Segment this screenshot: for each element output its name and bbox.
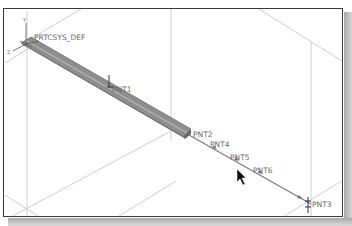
- csys-y-axis-label: Y: [22, 17, 27, 23]
- datum-point-pnt2-label[interactable]: PNT2: [193, 130, 213, 139]
- arrow-pointer-icon: [237, 169, 246, 185]
- csys-z-axis-label: Z: [7, 49, 11, 55]
- frame-shadow-right: [344, 12, 352, 226]
- frame-shadow-bottom: [8, 218, 352, 226]
- model-viewport[interactable]: Y Z PRTCSYS_DEF PNT1 PNT2 PNT4 PNT5 PNT6…: [3, 8, 343, 217]
- csys-label: PRTCSYS_DEF: [34, 33, 85, 42]
- datum-point-pnt5-label[interactable]: PNT5: [230, 153, 250, 162]
- datum-point-pnt3-label[interactable]: PNT3: [312, 200, 332, 209]
- trajectory-line[interactable]: [189, 135, 311, 204]
- datum-point-pnt4-label[interactable]: PNT4: [210, 140, 230, 149]
- datum-point-pnt6-label[interactable]: PNT6: [253, 166, 273, 175]
- datum-point-pnt1-label[interactable]: PNT1: [112, 85, 132, 94]
- datum-point-markers: [107, 75, 311, 213]
- beam-feature[interactable]: [21, 37, 191, 139]
